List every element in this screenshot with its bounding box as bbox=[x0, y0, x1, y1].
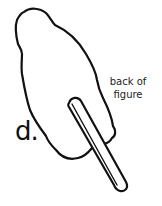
diagram-canvas: d. back of figure bbox=[0, 0, 162, 206]
figure-illustration bbox=[0, 0, 162, 206]
back-of-figure-annotation: back of figure bbox=[104, 75, 152, 101]
annotation-line-2: figure bbox=[104, 88, 152, 101]
step-label: d. bbox=[15, 118, 38, 144]
annotation-line-1: back of bbox=[104, 75, 152, 88]
